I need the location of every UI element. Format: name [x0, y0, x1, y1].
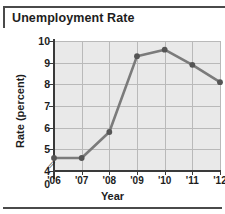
data-point-marker	[106, 129, 112, 135]
series-layer	[0, 0, 225, 214]
data-point-marker	[162, 47, 168, 53]
data-point-marker	[134, 53, 140, 59]
series-line	[54, 50, 220, 158]
bottom-divider	[3, 207, 222, 209]
data-point-marker	[217, 79, 223, 85]
data-point-marker	[51, 155, 57, 161]
data-point-marker	[79, 155, 85, 161]
data-point-marker	[189, 62, 195, 68]
chart-figure: Unemployment Rate 045678910 '06'07'08'09…	[0, 0, 225, 214]
